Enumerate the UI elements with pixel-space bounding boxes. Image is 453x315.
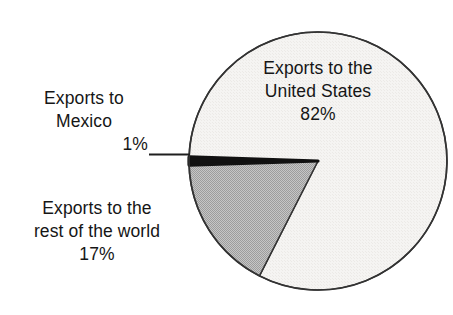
slice-value-rest-of-world: 17% [6, 243, 188, 266]
slice-label-rest-of-world: Exports to the rest of the world 17% [6, 197, 188, 265]
slice-label-rest-of-world-line2: rest of the world [6, 220, 188, 243]
slice-label-united-states-line1: Exports to the [218, 57, 418, 80]
slice-label-united-states: Exports to the United States 82% [218, 57, 418, 125]
slice-value-united-states: 82% [218, 103, 418, 126]
slice-label-mexico-line2: Mexico [14, 110, 154, 133]
slice-value-mexico: 1% [14, 133, 154, 156]
slice-label-mexico-line1: Exports to [14, 87, 154, 110]
pie-chart: Exports to the United States 82% Exports… [0, 0, 453, 315]
slice-label-united-states-line2: United States [218, 80, 418, 103]
slice-label-rest-of-world-line1: Exports to the [6, 197, 188, 220]
slice-label-mexico: Exports to Mexico 1% [14, 87, 154, 155]
pie-chart-graphic [0, 0, 453, 315]
